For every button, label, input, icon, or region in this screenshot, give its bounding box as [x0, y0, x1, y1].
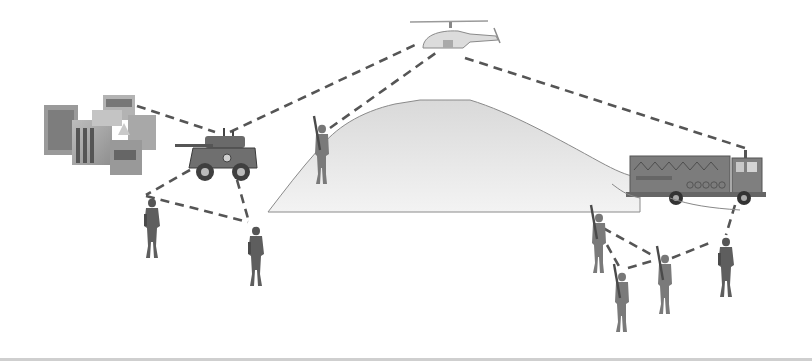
link-soldier-right-3-to-soldier-right-4	[672, 242, 712, 258]
helicopter-icon	[410, 21, 500, 48]
soldier-right-4-icon	[718, 238, 734, 297]
soldier-left-2-icon	[248, 227, 264, 286]
soldier-right-3-icon	[657, 246, 672, 314]
link-armored-vehicle-to-soldier-left-2	[237, 180, 249, 222]
link-armored-vehicle-to-soldier-left-1	[146, 170, 190, 195]
soldier-left-1-icon	[144, 199, 160, 258]
truck-icon	[626, 150, 766, 205]
armored-vehicle-icon	[175, 128, 257, 181]
soldier-right-1-icon	[591, 205, 606, 273]
link-soldier-right-2-to-soldier-right-3	[628, 261, 652, 268]
soldier-right-2-icon	[614, 264, 629, 332]
link-soldier-left-1-to-soldier-left-2	[146, 196, 248, 222]
network-diagram	[0, 0, 812, 361]
diagram-canvas	[0, 0, 812, 361]
